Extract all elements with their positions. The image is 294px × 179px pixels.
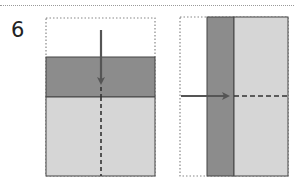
- left-figure: [46, 18, 155, 176]
- left-light-area: [46, 97, 155, 176]
- fold-diagrams: [0, 0, 294, 179]
- right-figure: [180, 17, 288, 176]
